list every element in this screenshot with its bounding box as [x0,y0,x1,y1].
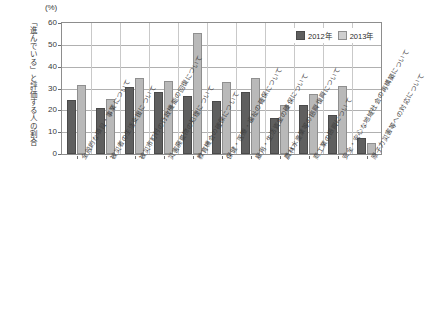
legend-label-2012: 2012年 [308,30,332,41]
y-axis-unit-label: (%) [45,3,57,12]
legend-item-series-1: 2013年 [338,30,374,41]
x-axis-labels: 全般的な項目・事業について被災者の生活支援について被災市町村の行政機能の回復につ… [0,155,390,314]
chart-legend: 2012年 2013年 [292,28,377,43]
y-tick-mark [58,110,61,111]
bar-2013年-全般的な項目・事業について [77,85,86,154]
legend-swatch-icon-2012 [296,31,305,40]
y-tick-label: 60 [37,18,57,27]
legend-item-series-0: 2012年 [296,30,332,41]
legend-label-2013: 2013年 [350,30,374,41]
y-axis-title: 「進んでいる」と評価する人の割合 [22,18,36,158]
bar-2012年-全般的な項目・事業について [67,100,76,154]
y-tick-mark [58,89,61,90]
y-tick-mark [58,67,61,68]
y-tick-label: 10 [37,127,57,136]
y-tick-label: 20 [37,105,57,114]
y-tick-label: 30 [37,84,57,93]
y-tick-mark [58,45,61,46]
bar-2013年-教育機会の確保について [193,33,202,154]
y-tick-label: 50 [37,40,57,49]
legend-swatch-icon-2013 [338,31,347,40]
y-tick-mark [58,132,61,133]
y-tick-mark [58,23,61,24]
y-tick-label: 40 [37,62,57,71]
